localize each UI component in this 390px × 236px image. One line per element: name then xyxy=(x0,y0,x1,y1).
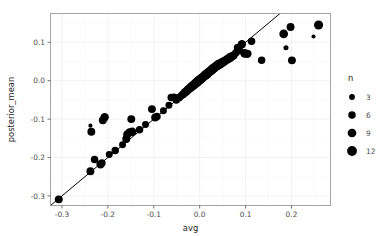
legend-key-dot xyxy=(347,146,357,156)
data-point xyxy=(311,34,315,38)
legend-key-dot xyxy=(348,129,357,138)
x-tick-label: 0.1 xyxy=(240,210,252,219)
legend-entry-label: 3 xyxy=(366,93,371,102)
data-point xyxy=(288,56,296,64)
y-tick-label: 0.0 xyxy=(33,76,45,85)
y-tick-label: -0.1 xyxy=(31,115,46,124)
data-point xyxy=(279,29,288,38)
scatter-plot-figure: -0.3-0.2-0.10.00.10.2 0.10.0-0.1-0.2-0.3… xyxy=(0,0,390,236)
data-point xyxy=(100,113,108,121)
x-tick-label: 0.0 xyxy=(194,210,206,219)
data-point xyxy=(248,37,255,44)
legend-entry-label: 9 xyxy=(366,129,371,138)
data-point xyxy=(243,50,251,58)
legend-entry-label: 12 xyxy=(366,147,375,156)
x-tick-label: 0.2 xyxy=(286,210,298,219)
x-tick-label: -0.3 xyxy=(55,210,70,219)
legend-entry-label: 6 xyxy=(366,111,371,120)
y-axis-title: posterior_mean xyxy=(6,77,16,143)
y-tick-label: -0.3 xyxy=(31,192,46,201)
data-point xyxy=(127,115,135,123)
y-tick-label: -0.2 xyxy=(31,153,45,162)
legend-title: n xyxy=(348,73,353,83)
data-point xyxy=(88,124,92,128)
data-point xyxy=(136,126,143,133)
data-point xyxy=(87,128,95,136)
data-point xyxy=(287,23,295,31)
data-point xyxy=(238,40,246,48)
x-axis-title: avg xyxy=(183,223,198,233)
legend-key-dot xyxy=(349,94,355,100)
data-point xyxy=(314,20,323,29)
legend-key-dot xyxy=(348,111,355,118)
x-tick-label: -0.1 xyxy=(147,210,162,219)
chart-canvas: -0.3-0.2-0.10.00.10.2 0.10.0-0.1-0.2-0.3… xyxy=(0,0,390,236)
x-tick-label: -0.2 xyxy=(101,210,115,219)
data-point xyxy=(283,45,288,50)
data-point xyxy=(148,105,156,113)
data-point xyxy=(258,57,265,64)
data-point xyxy=(165,102,172,109)
y-tick-label: 0.1 xyxy=(33,38,45,47)
